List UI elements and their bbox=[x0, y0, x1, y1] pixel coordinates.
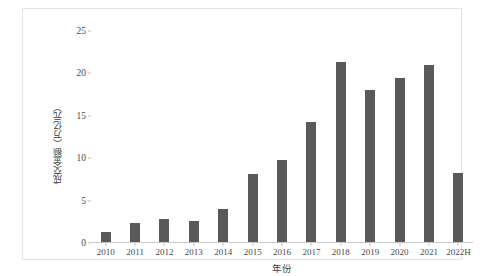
x-axis-tick-label: 2019 bbox=[356, 247, 385, 257]
x-axis-tick-label: 2017 bbox=[297, 247, 326, 257]
x-axis-line bbox=[91, 242, 473, 243]
plot-inner: 0510152025 bbox=[91, 31, 473, 243]
y-axis-tick-label: 10 bbox=[77, 153, 87, 163]
x-axis-tick-mark bbox=[428, 243, 429, 246]
bar-slot bbox=[444, 31, 473, 243]
bar bbox=[424, 65, 434, 243]
chart-frame: 成交金额（万亿元） 0510152025 2010201120122013201… bbox=[22, 8, 462, 260]
x-axis-tick-mark bbox=[340, 243, 341, 246]
y-axis-title: 成交金额（万亿元） bbox=[49, 59, 65, 229]
x-axis-tick-mark bbox=[370, 243, 371, 246]
bar bbox=[453, 173, 463, 243]
bar-slot bbox=[414, 31, 443, 243]
x-axis-tick-mark bbox=[311, 243, 312, 246]
bar-slot bbox=[150, 31, 179, 243]
y-axis-tick-label: 20 bbox=[77, 68, 87, 78]
x-axis-tick-mark bbox=[135, 243, 136, 246]
bar bbox=[395, 78, 405, 243]
x-axis-title: 年份 bbox=[91, 261, 473, 275]
x-axis-tick-label: 2014 bbox=[209, 247, 238, 257]
x-axis-tick-mark bbox=[105, 243, 106, 246]
plot-area: 0510152025 bbox=[91, 31, 473, 243]
y-axis-tick-label: 15 bbox=[77, 111, 87, 121]
x-axis-tick-mark bbox=[458, 243, 459, 246]
x-axis-tick-label: 2010 bbox=[91, 247, 120, 257]
x-axis-tick-label: 2013 bbox=[179, 247, 208, 257]
bar bbox=[248, 174, 258, 243]
x-axis-tick-label: 2021 bbox=[414, 247, 443, 257]
bar bbox=[306, 122, 316, 243]
x-axis-tick-label: 2016 bbox=[267, 247, 296, 257]
bar bbox=[189, 221, 199, 243]
x-axis-tick-label: 2020 bbox=[385, 247, 414, 257]
bar-slot bbox=[267, 31, 296, 243]
x-axis-tick-mark bbox=[399, 243, 400, 246]
bar-slot bbox=[120, 31, 149, 243]
y-axis-tick-label: 5 bbox=[81, 196, 86, 206]
bar-slot bbox=[179, 31, 208, 243]
bar bbox=[218, 209, 228, 243]
bar bbox=[130, 223, 140, 243]
bar-slot bbox=[209, 31, 238, 243]
bar-slot bbox=[326, 31, 355, 243]
x-axis-tick-label: 2012 bbox=[150, 247, 179, 257]
x-axis-tick-label: 2022H bbox=[444, 247, 473, 257]
x-axis-tick-mark bbox=[223, 243, 224, 246]
x-axis-tick-mark bbox=[193, 243, 194, 246]
bar-slot bbox=[385, 31, 414, 243]
x-axis-tick-label: 2015 bbox=[238, 247, 267, 257]
bar bbox=[336, 62, 346, 243]
x-axis-tick-mark bbox=[252, 243, 253, 246]
bar bbox=[365, 90, 375, 243]
x-axis-tick-mark bbox=[164, 243, 165, 246]
x-axis-tick-mark bbox=[282, 243, 283, 246]
y-axis-tick-label: 25 bbox=[77, 26, 87, 36]
x-axis-tick-label: 2018 bbox=[326, 247, 355, 257]
bar bbox=[159, 219, 169, 243]
bar-slot bbox=[356, 31, 385, 243]
bar-slot bbox=[297, 31, 326, 243]
x-axis-tick-label: 2011 bbox=[120, 247, 149, 257]
bar-slot bbox=[91, 31, 120, 243]
bar bbox=[277, 160, 287, 243]
bar-slot bbox=[238, 31, 267, 243]
x-axis-tick-labels: 2010201120122013201420152016201720182019… bbox=[91, 247, 473, 257]
y-axis-tick-label: 0 bbox=[81, 238, 86, 248]
bar-series bbox=[91, 31, 473, 243]
